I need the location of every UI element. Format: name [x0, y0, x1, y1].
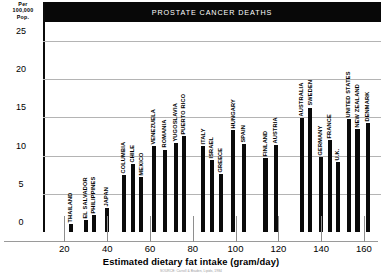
bar-label: CHILE: [130, 145, 136, 163]
bar-label: HUNGARY: [231, 99, 237, 128]
bar-label: MEXICO: [139, 152, 145, 175]
y-unit-line-3: Pop.: [4, 14, 42, 20]
bar: [210, 160, 214, 232]
chart-container: Per 100,000 Pop. PROSTATE CANCER DEATHS …: [0, 0, 382, 276]
bar: [201, 146, 205, 232]
x-tick-label-120: 120: [265, 243, 291, 254]
bar-label: AUSTRALIA: [299, 83, 305, 117]
bar: [122, 175, 126, 232]
x-tick-100: [236, 216, 237, 242]
bar-label: YUGOSLAVIA: [173, 103, 179, 142]
gridline-25: [43, 41, 381, 42]
bar: [300, 118, 304, 232]
bar-label: DENMARK: [366, 91, 372, 121]
bar: [131, 164, 135, 232]
x-tick-label-100: 100: [223, 243, 249, 254]
bar: [308, 108, 312, 232]
bar-label: EL SALVADOR: [83, 177, 89, 218]
bar: [263, 158, 267, 232]
bar: [182, 136, 186, 232]
x-tick-label-140: 140: [308, 243, 334, 254]
x-tick-160: [364, 216, 365, 242]
bar: [242, 144, 246, 232]
bar: [139, 177, 143, 232]
bar-label: U.K.: [336, 148, 342, 160]
bar: [366, 123, 370, 232]
bar: [219, 174, 223, 232]
bar: [69, 224, 73, 232]
y-tick-label-0: 0: [4, 217, 38, 227]
y-tick-label-10: 10: [4, 141, 38, 151]
bar-label: FINLAND: [263, 130, 269, 156]
gridline-20: [43, 79, 381, 80]
bar: [355, 129, 359, 232]
bar-label: ROMANIA: [162, 120, 168, 148]
x-tick-120: [278, 216, 279, 242]
bar: [84, 220, 88, 232]
bar-label: NEW ZEALAND: [355, 84, 361, 128]
bar: [92, 215, 96, 232]
bar: [163, 150, 167, 232]
bar-label: GERMANY: [319, 126, 325, 156]
y-tick-label-15: 15: [4, 102, 38, 112]
x-tick-label-60: 60: [137, 243, 163, 254]
x-axis-title: Estimated dietary fat intake (gram/day): [0, 256, 382, 267]
y-axis-unit-caption: Per 100,000 Pop.: [4, 1, 42, 20]
bar: [347, 119, 351, 232]
bar-label: ISRAEL: [210, 137, 216, 159]
bar: [336, 162, 340, 232]
x-tick-140: [321, 216, 322, 242]
bar-label: SPAIN: [242, 125, 248, 143]
x-tick-label-40: 40: [94, 243, 120, 254]
bar-label: FRANCE: [327, 114, 333, 139]
x-tick-20: [64, 216, 65, 242]
x-tick-label-160: 160: [351, 243, 377, 254]
y-tick-label-5: 5: [4, 179, 38, 189]
y-tick-label-20: 20: [4, 64, 38, 74]
bar-label: PHILIPPINES: [92, 177, 98, 214]
x-tick-label-20: 20: [51, 243, 77, 254]
chart-title-banner: PROSTATE CANCER DEATHS: [43, 2, 381, 22]
x-tick-40: [107, 216, 108, 242]
plot-area: THAILANDEL SALVADORPHILIPPINESJAPANCOLUM…: [43, 22, 381, 232]
bar: [152, 146, 156, 232]
x-tick-60: [150, 216, 151, 242]
source-note: SOURCE: Carroll & Braden, Lipids, 1984: [0, 269, 382, 274]
bar-label: THAILAND: [68, 192, 74, 222]
bar: [174, 143, 178, 232]
bar-label: ITALY: [201, 128, 207, 144]
bar-label: AUSTRIA: [274, 117, 280, 143]
bar-label: UNITED STATES: [346, 71, 352, 117]
bar-label: PUERTO RICO: [182, 93, 188, 134]
x-tick-80: [193, 216, 194, 242]
chart-title: PROSTATE CANCER DEATHS: [43, 8, 381, 17]
bar-label: GREECE: [218, 148, 224, 173]
bar-label: SWEDEN: [308, 80, 314, 106]
x-tick-label-80: 80: [180, 243, 206, 254]
bar-label: COLUMBIA: [122, 141, 128, 173]
y-tick-label-25: 25: [4, 26, 38, 36]
bar-label: JAPAN: [105, 187, 111, 207]
bar: [328, 140, 332, 232]
bar-label: VENEZUELA: [152, 109, 158, 145]
